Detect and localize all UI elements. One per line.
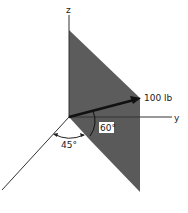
force-label: 100 lb <box>144 93 173 103</box>
angle-45-label: 45° <box>61 140 77 150</box>
x-axis <box>2 117 69 190</box>
upper-plane <box>69 30 140 117</box>
y-axis-label: y <box>174 113 180 123</box>
angle-60-label: 60° <box>100 123 116 133</box>
angle-arc-45 <box>54 134 84 138</box>
z-axis-label: z <box>66 5 71 15</box>
force-diagram: 60° 45° z y 100 lb <box>0 0 188 213</box>
